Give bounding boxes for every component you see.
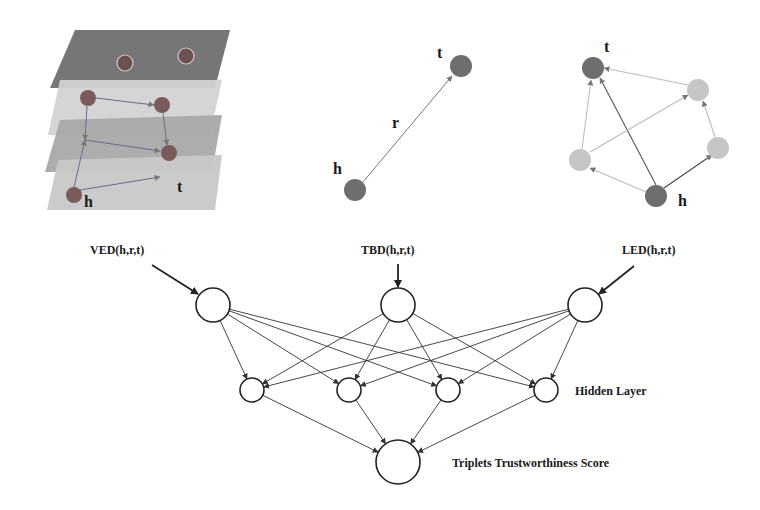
hidden-node xyxy=(534,378,558,402)
entity-node xyxy=(80,90,96,106)
embedding-layer-plane xyxy=(50,30,230,88)
input-label: VED(h,r,t) xyxy=(90,243,144,257)
network-connection xyxy=(264,309,569,387)
network-connection xyxy=(418,395,535,452)
entity-node xyxy=(645,185,667,207)
entity-node xyxy=(569,149,591,171)
visual-embedding-panel: ht xyxy=(45,30,230,210)
hidden-node xyxy=(337,378,361,402)
network-connection xyxy=(355,320,390,380)
output-score-label: Triplets Trustworthiness Score xyxy=(452,456,610,470)
diagram-canvas: ht thr th VED(h,r,t)TBD(h,r,t)LED(h,r,t)… xyxy=(0,0,760,510)
hidden-node xyxy=(240,378,264,402)
hidden-layer-label: Hidden Layer xyxy=(575,384,647,398)
entity-node xyxy=(687,79,709,101)
path-edge xyxy=(590,168,646,192)
path-edge xyxy=(582,80,591,149)
entity-label-h: h xyxy=(678,192,687,209)
network-connection xyxy=(229,311,437,386)
path-edge xyxy=(604,68,688,85)
translation-embedding-panel: thr xyxy=(333,44,472,201)
entity-label-h: h xyxy=(84,193,93,210)
path-edge xyxy=(590,95,688,152)
entity-node xyxy=(154,97,170,113)
entity-node xyxy=(178,48,194,64)
path-edge xyxy=(600,78,656,185)
entity-label-r: r xyxy=(392,114,399,131)
network-connection xyxy=(551,320,578,379)
entity-node xyxy=(707,137,729,159)
relation-edge xyxy=(363,76,452,182)
input-node xyxy=(381,288,415,322)
input-label: LED(h,r,t) xyxy=(622,243,676,257)
network-connection xyxy=(229,309,534,387)
entity-label-t: t xyxy=(177,178,183,195)
output-node xyxy=(376,440,420,484)
input-arrow xyxy=(599,266,634,294)
input-label: TBD(h,r,t) xyxy=(361,243,415,257)
entity-node xyxy=(66,187,82,203)
local-graph-panel: th xyxy=(569,38,729,209)
network-connection xyxy=(263,395,379,452)
entity-node xyxy=(450,55,472,77)
entity-node xyxy=(582,57,604,79)
network-connection xyxy=(411,400,442,444)
network-nodes xyxy=(196,288,602,484)
path-edge xyxy=(664,155,712,188)
input-node xyxy=(568,288,602,322)
network-connection xyxy=(407,320,442,380)
entity-node xyxy=(344,179,366,201)
path-edge xyxy=(703,101,715,137)
network-connection xyxy=(220,320,247,379)
entity-label-h: h xyxy=(333,160,342,177)
entity-label-t: t xyxy=(604,38,610,55)
input-node xyxy=(196,288,230,322)
network-connection xyxy=(356,400,386,444)
entity-node xyxy=(117,55,133,71)
entity-node xyxy=(161,145,177,161)
hidden-node xyxy=(436,378,460,402)
trustworthiness-diagram: ht thr th VED(h,r,t)TBD(h,r,t)LED(h,r,t)… xyxy=(0,0,760,510)
entity-label-t: t xyxy=(437,44,443,61)
input-arrow xyxy=(152,265,198,294)
network-connection xyxy=(360,311,569,386)
